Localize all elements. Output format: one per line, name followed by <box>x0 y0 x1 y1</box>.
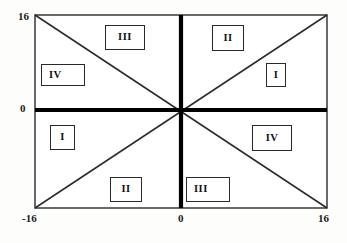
plot-canvas <box>0 0 347 243</box>
region-label-lower-right-inner: IV <box>266 133 279 144</box>
region-label-upper-right-inner: I <box>274 70 279 81</box>
x-tick-label-16: 16 <box>318 212 329 224</box>
region-box-lower-left-inner: I <box>50 125 75 150</box>
region-box-upper-left-outer: III <box>105 25 145 50</box>
region-box-upper-left-inner: IV <box>41 64 85 86</box>
region-box-lower-left-outer: II <box>110 177 142 202</box>
region-label-upper-left-inner: IV <box>49 70 62 81</box>
region-label-lower-left-inner: I <box>60 132 65 143</box>
region-box-upper-right-inner: I <box>266 63 286 87</box>
y-tick-label-16: 16 <box>18 10 29 22</box>
region-label-upper-right-outer: II <box>223 33 232 44</box>
x-tick-label-0: 0 <box>178 212 184 224</box>
region-label-upper-left-outer: III <box>118 32 132 43</box>
region-label-lower-left-outer: II <box>121 184 130 195</box>
quadrant-diagram-figure: 16 0 -16 0 16 III IV II I I II III IV <box>0 0 347 243</box>
region-label-lower-right-outer: III <box>194 184 208 195</box>
region-box-upper-right-outer: II <box>212 25 244 51</box>
region-box-lower-right-outer: III <box>186 177 230 202</box>
y-tick-label-0: 0 <box>20 102 26 114</box>
x-tick-label-neg16: -16 <box>22 212 37 224</box>
region-box-lower-right-inner: IV <box>252 125 292 151</box>
